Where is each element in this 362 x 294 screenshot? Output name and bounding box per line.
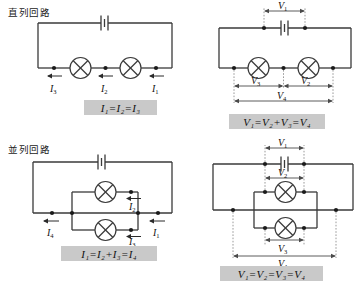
battery-symbol — [101, 16, 108, 31]
battery-symbol — [281, 21, 288, 36]
label-I1: I1 — [152, 227, 160, 239]
node-main-left — [231, 208, 235, 212]
label-I2: I2 — [100, 83, 108, 95]
panel-parallel-current: 並列回路 — [0, 140, 181, 294]
node-middle — [281, 66, 285, 70]
lamp-icon-top-branch — [95, 182, 116, 203]
current-arrow-I1 — [149, 74, 164, 79]
current-arrow-I4 — [43, 219, 59, 224]
node-top-branch-right — [302, 190, 306, 194]
label-I1: I1 — [151, 83, 159, 95]
current-arrow-I1 — [149, 219, 165, 224]
series-current-circuit: I3 I2 I1 — [0, 0, 181, 100]
lamp-icon-right — [120, 58, 141, 79]
battery-symbol — [98, 155, 105, 170]
node-main-right — [334, 208, 338, 212]
lamp-icon-left — [70, 58, 91, 79]
node-battery-left — [262, 26, 266, 30]
parallel-current-circuit: I4 I1 I2 I3 — [0, 140, 181, 246]
node-I3 — [129, 228, 133, 232]
node-bottom-branch-left — [263, 226, 267, 230]
node-battery-right — [303, 26, 307, 30]
formula-parallel-voltage: V₁=V₂=V₃=V₄ — [220, 266, 323, 281]
formula-parallel-current: I₁=I₂+I₃=I₄ — [61, 246, 157, 261]
node-top-branch-left — [263, 190, 267, 194]
node-I1 — [154, 66, 158, 70]
current-arrow-I3 — [47, 74, 62, 79]
label-V1: V1 — [278, 0, 287, 12]
node-I3 — [52, 66, 56, 70]
node-junction-right — [136, 211, 140, 215]
parallel-voltage-circuit: V1 V2 V3 V4 — [181, 140, 362, 268]
panel-series-current: 直列回路 — [0, 0, 181, 147]
formula-series-voltage: V₁=V₂+V₃=V₄ — [229, 114, 325, 129]
label-I4: I4 — [46, 227, 54, 239]
label-I2: I2 — [128, 201, 136, 213]
node-I1 — [156, 211, 160, 215]
label-V4: V4 — [277, 90, 287, 102]
node-I2 — [129, 190, 133, 194]
node-battery-left — [263, 162, 267, 166]
node-battery-right — [302, 162, 306, 166]
lamp-icon-top-branch — [275, 182, 296, 203]
node-v2-right — [331, 66, 335, 70]
node-I4 — [50, 211, 54, 215]
series-voltage-circuit: V1 V3 V2 V4 — [181, 0, 362, 112]
current-arrow-I2 — [98, 74, 113, 79]
label-I3: I3 — [49, 83, 57, 95]
panel-series-voltage: V1 V3 V2 V4 V₁=V₂+V₃=V₄ — [181, 0, 362, 147]
lamp-icon-bottom-branch — [95, 220, 116, 241]
label-V2: V2 — [278, 167, 287, 179]
node-junction-left — [70, 211, 74, 215]
panel-parallel-voltage: V1 V2 V3 V4 V₁=V₂=V₃=V₄ — [181, 140, 362, 294]
lamp-icon-bottom-branch — [275, 218, 296, 239]
node-bottom-branch-right — [302, 226, 306, 230]
node-I2 — [103, 66, 107, 70]
node-v3-left — [232, 66, 236, 70]
formula-series-current: I₁=I₂=I₃ — [84, 100, 157, 115]
label-V3: V3 — [278, 243, 287, 255]
